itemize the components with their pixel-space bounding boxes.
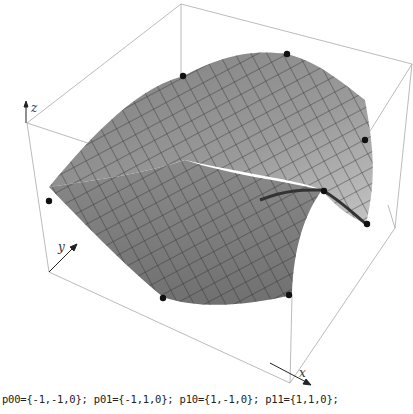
x-axis-label: x xyxy=(299,366,306,380)
y-axis-label: y xyxy=(57,240,65,254)
control-point-caption: p00={-1,-1,0}; p01={-1,1,0}; p10={1,-1,0… xyxy=(2,393,339,405)
surface xyxy=(49,52,373,304)
z-axis-label: z xyxy=(30,101,38,115)
surface-plot: z y x xyxy=(0,0,413,414)
